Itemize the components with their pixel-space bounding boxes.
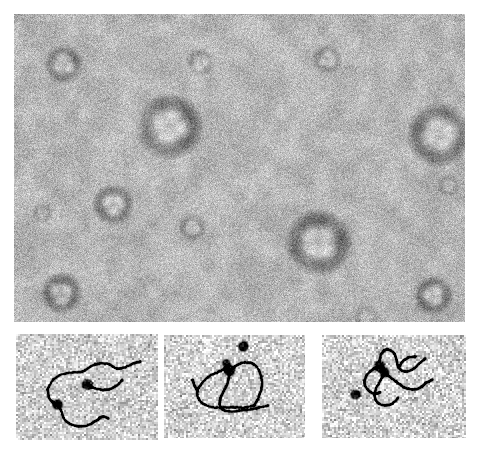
dna-complex-canvas-3 — [322, 335, 466, 438]
dna-complex-panel-3 — [322, 335, 466, 438]
dna-complex-canvas-1 — [16, 334, 158, 440]
top-micrograph-canvas — [14, 14, 465, 322]
top-micrograph-panel — [14, 14, 465, 322]
dna-complex-panel-1 — [16, 334, 158, 440]
dna-complex-canvas-2 — [164, 335, 305, 438]
dna-complex-panel-2 — [164, 335, 305, 438]
micrograph-figure — [0, 0, 483, 455]
